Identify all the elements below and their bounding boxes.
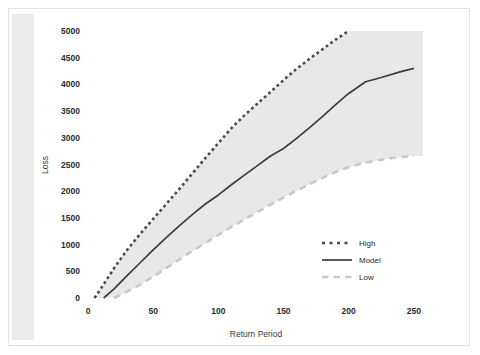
- y-axis-ticks: 0500100015002000250030003500400045005000: [61, 26, 80, 303]
- legend-label-high: High: [359, 239, 375, 248]
- legend-label-model: Model: [359, 256, 381, 265]
- y-tick-label: 0: [75, 293, 80, 303]
- x-tick-label: 250: [407, 306, 421, 316]
- chart-svg: 050100150200250 050010001500200025003000…: [0, 0, 480, 355]
- y-tick-label: 3500: [61, 106, 80, 116]
- y-tick-label: 1500: [61, 213, 80, 223]
- chart-legend: HighModelLow: [322, 239, 381, 282]
- y-tick-label: 1000: [61, 240, 80, 250]
- y-tick-label: 2000: [61, 186, 80, 196]
- y-tick-label: 500: [66, 266, 80, 276]
- x-axis-ticks: 050100150200250: [86, 306, 422, 316]
- x-tick-label: 100: [211, 306, 225, 316]
- loss-return-period-chart: 050100150200250 050010001500200025003000…: [0, 0, 480, 355]
- y-axis-title: Loss: [40, 156, 50, 174]
- legend-label-low: Low: [359, 273, 374, 282]
- x-axis-title: Return Period: [230, 329, 283, 339]
- x-tick-label: 50: [148, 306, 158, 316]
- y-tick-label: 3000: [61, 133, 80, 143]
- x-tick-label: 0: [86, 306, 91, 316]
- y-tick-label: 4500: [61, 53, 80, 63]
- y-tick-label: 4000: [61, 79, 80, 89]
- y-tick-label: 2500: [61, 160, 80, 170]
- x-tick-label: 150: [276, 306, 290, 316]
- y-tick-label: 5000: [61, 26, 80, 36]
- x-tick-label: 200: [342, 306, 356, 316]
